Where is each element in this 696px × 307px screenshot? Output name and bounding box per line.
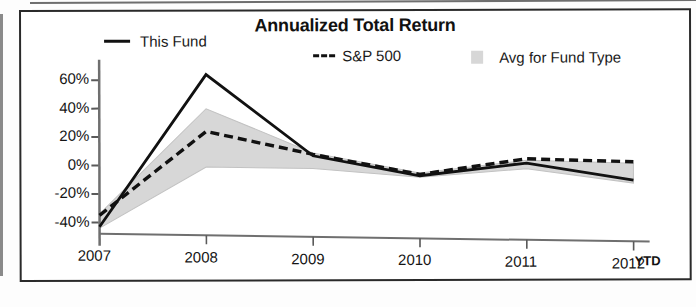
x-axis-tick-label: 2009 <box>291 250 324 267</box>
page-top-rule <box>30 0 696 4</box>
page-edge-sliver <box>0 14 3 276</box>
x-axis-tick-label: 2011 <box>505 253 537 270</box>
scanned-page: Annualized Total Return This Fund S&P 50… <box>0 0 696 307</box>
x-axis-tick-label: 2007 <box>78 247 111 264</box>
x-axis-tick-label: 2008 <box>184 248 217 265</box>
x-axis-tick-label: 2010 <box>398 251 431 268</box>
x-axis-ytd-label: YTD <box>635 253 661 268</box>
x-axis-tick-labels: 200720082009201020112012 <box>21 10 690 280</box>
chart-figure-frame: Annualized Total Return This Fund S&P 50… <box>19 8 692 282</box>
